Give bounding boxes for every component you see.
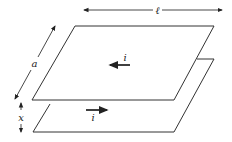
top-current-label: i bbox=[123, 52, 126, 63]
bottom-current-label: i bbox=[91, 112, 94, 123]
bottom-plate bbox=[33, 59, 214, 132]
separation-dimension-arrow: x bbox=[18, 103, 24, 132]
top-plate bbox=[32, 26, 214, 100]
parallel-plates-diagram: ℓ a x i i bbox=[0, 0, 232, 142]
top-current-arrow: i bbox=[110, 52, 130, 65]
width-label: a bbox=[32, 58, 38, 69]
length-dimension-arrow: ℓ bbox=[84, 5, 222, 16]
bottom-current-arrow: i bbox=[86, 110, 107, 123]
width-dimension-arrow: a bbox=[15, 26, 55, 99]
separation-label: x bbox=[18, 112, 24, 123]
length-label: ℓ bbox=[155, 5, 159, 16]
